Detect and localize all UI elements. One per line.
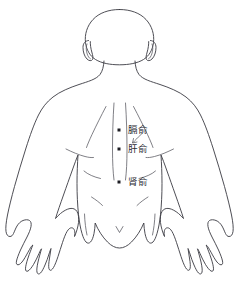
acupoint-marker-ganshu[interactable] [118, 148, 121, 151]
acupoint-label-ganshu: 肝俞 [128, 144, 149, 154]
gluteal-cleft-mark [116, 227, 123, 233]
left-gluteal-fold [85, 214, 88, 235]
head-outline [85, 10, 153, 65]
acupoint-marker-shenshu[interactable] [118, 181, 121, 184]
waist-crease-left [84, 171, 101, 179]
left-scapula-lower-edge [66, 149, 94, 158]
acupoint-marker-geshu[interactable] [118, 129, 121, 132]
body-outline-illustration [0, 0, 239, 288]
body-contour [6, 61, 233, 274]
right-iliac-crease [137, 197, 148, 206]
acupoint-diagram: 膈俞 肝俞 肾俞 [0, 0, 239, 288]
right-gluteal-fold [153, 214, 156, 235]
acupoint-label-geshu: 膈俞 [128, 125, 149, 135]
acupoint-label-shenshu: 肾俞 [128, 177, 149, 187]
left-iliac-crease [92, 197, 103, 206]
acupoint-leader-line-geshu [133, 134, 142, 143]
spine-right-line [126, 103, 128, 180]
left-scapula-line [87, 107, 107, 148]
spine-left-line [113, 103, 115, 180]
right-scapula-lower-edge [146, 149, 174, 158]
